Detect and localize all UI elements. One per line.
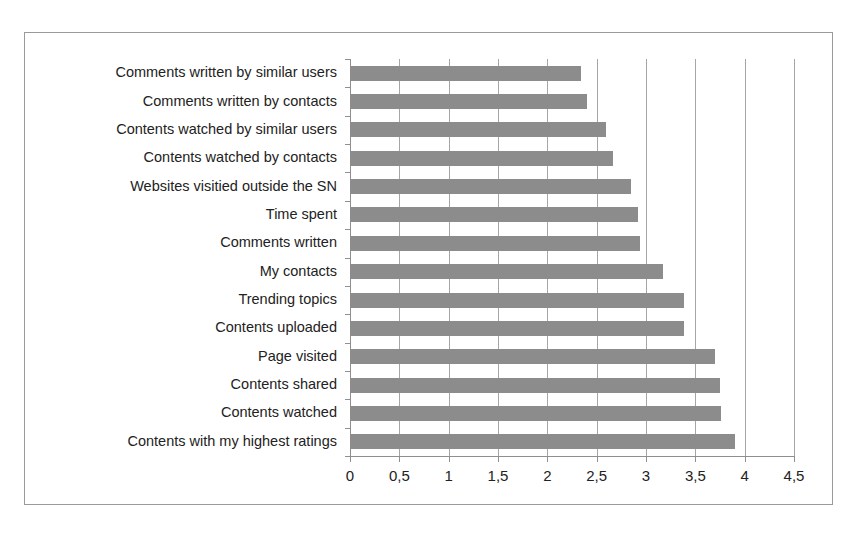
- category-label: Contents watched by similar users: [116, 121, 337, 138]
- bar-row[interactable]: [350, 314, 794, 342]
- bar[interactable]: [350, 321, 684, 336]
- chart-frame: Comments written by similar usersComment…: [24, 32, 833, 505]
- category-label: Contents uploaded: [215, 319, 337, 336]
- category-tick: [345, 172, 350, 173]
- category-tick: [345, 144, 350, 145]
- x-tick-1: [449, 456, 450, 462]
- bar[interactable]: [350, 94, 587, 109]
- bar-row[interactable]: [350, 258, 794, 286]
- category-tick: [345, 399, 350, 400]
- bar-row[interactable]: [350, 87, 794, 115]
- bar-row[interactable]: [350, 343, 794, 371]
- category-tick: [345, 371, 350, 372]
- category-axis-labels: Comments written by similar usersComment…: [35, 59, 345, 456]
- category-label: Contents shared: [231, 376, 337, 393]
- category-label: Page visited: [258, 348, 337, 365]
- bar[interactable]: [350, 122, 606, 137]
- bar[interactable]: [350, 406, 721, 421]
- category-label: Contents with my highest ratings: [127, 433, 337, 450]
- category-tick: [345, 286, 350, 287]
- bar[interactable]: [350, 179, 631, 194]
- x-tick-3: [646, 456, 647, 462]
- x-tick-2: [547, 456, 548, 462]
- x-tick-3-5: [695, 456, 696, 462]
- x-tick-0-5: [399, 456, 400, 462]
- category-label: Websites visitied outside the SN: [130, 178, 337, 195]
- bar[interactable]: [350, 207, 638, 222]
- bar[interactable]: [350, 349, 715, 364]
- bar-row[interactable]: [350, 172, 794, 200]
- category-tick: [345, 229, 350, 230]
- bar-row[interactable]: [350, 116, 794, 144]
- bar[interactable]: [350, 378, 720, 393]
- bar-row[interactable]: [350, 371, 794, 399]
- category-label: Comments written: [220, 234, 337, 251]
- x-tick-label: 1,5: [488, 467, 509, 485]
- category-label: Time spent: [266, 206, 337, 223]
- x-tick-0: [350, 456, 351, 462]
- x-tick-label: 2: [543, 467, 551, 485]
- bar[interactable]: [350, 236, 640, 251]
- category-label: Trending topics: [238, 291, 337, 308]
- bar-row[interactable]: [350, 144, 794, 172]
- x-tick-4-5: [794, 456, 795, 462]
- bar[interactable]: [350, 66, 581, 81]
- category-label: Contents watched by contacts: [144, 149, 337, 166]
- category-tick: [345, 116, 350, 117]
- bar-row[interactable]: [350, 229, 794, 257]
- x-tick-label: 1: [444, 467, 452, 485]
- category-label: Comments written by similar users: [115, 64, 337, 81]
- category-tick: [345, 59, 350, 60]
- x-tick-label: 0,5: [389, 467, 410, 485]
- bar[interactable]: [350, 151, 613, 166]
- category-tick: [345, 258, 350, 259]
- bar[interactable]: [350, 264, 663, 279]
- x-axis-line: [350, 456, 795, 457]
- x-tick-label: 4: [740, 467, 748, 485]
- x-tick-label: 2,5: [586, 467, 607, 485]
- bar-row[interactable]: [350, 428, 794, 456]
- category-tick: [345, 456, 350, 457]
- x-tick-1-5: [498, 456, 499, 462]
- category-tick: [345, 314, 350, 315]
- category-label: Contents watched: [221, 404, 337, 421]
- bar-row[interactable]: [350, 201, 794, 229]
- gridline-4-5: [794, 59, 795, 456]
- category-tick: [345, 201, 350, 202]
- bar[interactable]: [350, 434, 735, 449]
- category-label: Comments written by contacts: [143, 93, 337, 110]
- x-tick-label: 0: [346, 467, 354, 485]
- bar-row[interactable]: [350, 286, 794, 314]
- bar-row[interactable]: [350, 399, 794, 427]
- category-tick: [345, 87, 350, 88]
- x-tick-2-5: [597, 456, 598, 462]
- bar[interactable]: [350, 293, 684, 308]
- x-tick-label: 3: [642, 467, 650, 485]
- plot-area: [350, 59, 794, 456]
- category-tick: [345, 428, 350, 429]
- category-tick: [345, 343, 350, 344]
- x-tick-label: 4,5: [784, 467, 805, 485]
- x-tick-4: [745, 456, 746, 462]
- bar-row[interactable]: [350, 59, 794, 87]
- x-tick-label: 3,5: [685, 467, 706, 485]
- category-label: My contacts: [260, 263, 337, 280]
